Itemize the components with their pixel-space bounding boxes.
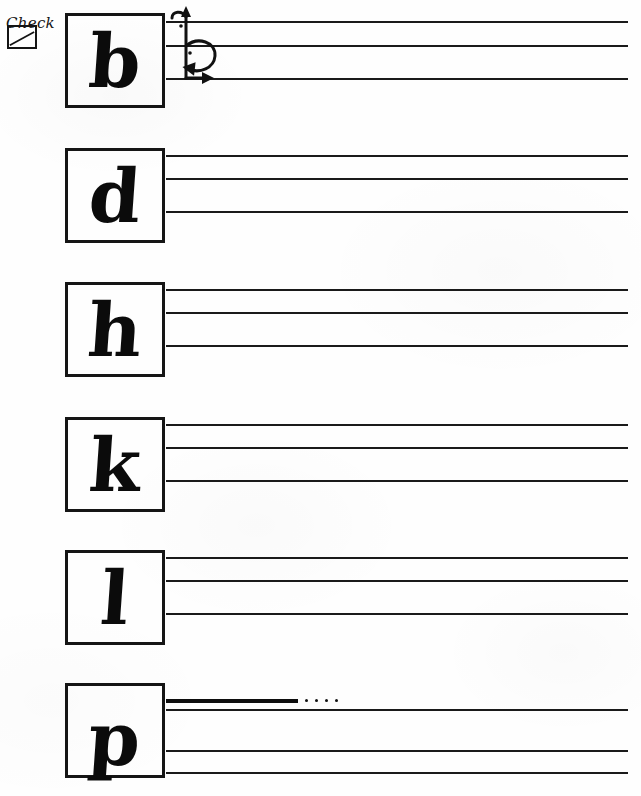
letter-glyph-h: h [65, 285, 165, 374]
dot [325, 699, 328, 702]
guide-line [166, 289, 628, 291]
letter-b-stroke-order-diagram [168, 6, 234, 90]
letter-box-h[interactable]: h [65, 282, 165, 377]
guide-line [166, 312, 628, 314]
letter-box-p[interactable]: p [65, 683, 165, 778]
letter-box-l[interactable]: l [65, 550, 165, 645]
checkbox-diagonal-icon[interactable] [7, 25, 37, 49]
guide-line [166, 424, 628, 426]
letter-box-d[interactable]: d [65, 148, 165, 243]
dot [315, 699, 318, 702]
guide-line [166, 178, 628, 180]
dot [305, 699, 308, 702]
guide-line [166, 750, 628, 752]
guide-line [166, 480, 628, 482]
letter-box-k[interactable]: k [65, 417, 165, 512]
worksheet-page: Check bdhklp [0, 0, 641, 796]
guide-line [166, 709, 628, 711]
letter-glyph-p: p [65, 686, 165, 775]
paper-texture [0, 0, 641, 796]
checkbox-diagonal-line [9, 27, 35, 47]
guide-line-dots [305, 699, 338, 702]
guide-line [166, 21, 628, 23]
guide-line [166, 613, 628, 615]
letter-glyph-k: k [65, 420, 165, 509]
letter-box-b[interactable]: b [65, 13, 165, 108]
guide-line [166, 557, 628, 559]
guide-line [166, 45, 628, 47]
letter-glyph-d: d [65, 151, 165, 240]
guide-line [166, 78, 628, 80]
guide-line [166, 211, 628, 213]
guide-line [166, 345, 628, 347]
dot [335, 699, 338, 702]
guide-line [166, 155, 628, 157]
guide-line [166, 772, 628, 774]
guide-line [166, 580, 628, 582]
guide-line [166, 447, 628, 449]
guide-line-thick [166, 699, 298, 703]
letter-glyph-b: b [65, 16, 165, 105]
letter-glyph-l: l [65, 553, 165, 642]
